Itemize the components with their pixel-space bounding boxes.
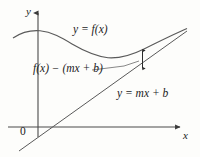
x-axis-label: x <box>183 130 188 141</box>
curve-label: y = f(x) <box>73 24 108 36</box>
slant-asymptote-figure: y = f(x) y = mx + b f(x) − (mx + b) y x … <box>0 0 200 157</box>
y-axis-label: y <box>26 6 31 17</box>
line-label: y = mx + b <box>117 88 168 100</box>
gap-label: f(x) − (mx + b) <box>33 63 103 75</box>
origin-label: 0 <box>20 126 26 138</box>
